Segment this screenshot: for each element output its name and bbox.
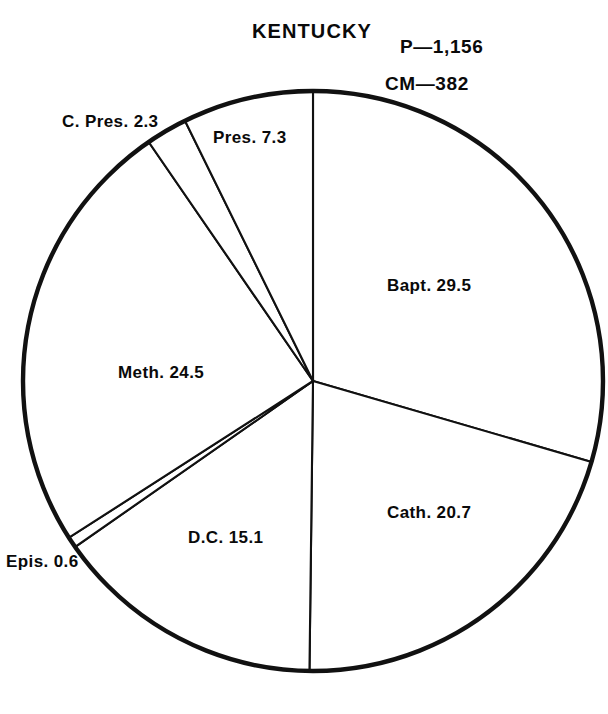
slice-label-presbyterian: Pres. 7.3 xyxy=(213,128,287,148)
slice-label-baptist: Bapt. 29.5 xyxy=(387,276,471,296)
page-title: KENTUCKY xyxy=(252,20,372,43)
church-members-stat: CM—382 xyxy=(385,73,469,95)
slice-label-methodist: Meth. 24.5 xyxy=(118,363,204,383)
slice-label-disciples-of-christ: D.C. 15.1 xyxy=(188,528,263,548)
slice-label-catholic: Cath. 20.7 xyxy=(387,503,471,523)
slice-label-cumberland-presbyterian: C. Pres. 2.3 xyxy=(62,112,158,132)
population-stat: P—1,156 xyxy=(400,36,483,58)
pie-slice-group xyxy=(23,91,603,671)
pie-chart-figure: KENTUCKY P—1,156 CM—382 C. Pres. 2.3 Pre… xyxy=(0,0,608,714)
pie-chart-graphic xyxy=(0,0,608,714)
slice-label-episcopal: Epis. 0.6 xyxy=(6,552,79,572)
